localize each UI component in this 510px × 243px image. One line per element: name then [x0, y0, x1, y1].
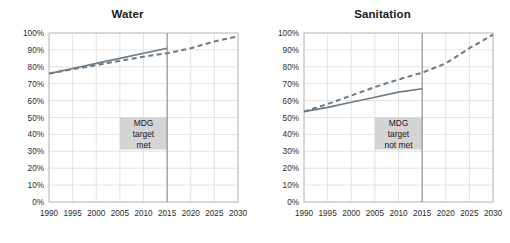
y-axis-tick-label: 90% [28, 46, 44, 55]
y-axis-tick-label: 0% [287, 198, 299, 207]
mdg-status-line: MDG [134, 118, 154, 128]
mdg-status-line: target [133, 129, 155, 139]
x-axis-tick-label: 2000 [342, 209, 361, 218]
y-axis-tick-label: 50% [283, 114, 299, 123]
y-axis-tick-label: 100% [278, 29, 299, 38]
y-axis-tick-label: 50% [28, 114, 44, 123]
x-axis-tick-label: 2025 [460, 209, 479, 218]
x-axis-tick-label: 2025 [205, 209, 224, 218]
mdg-status-line: met [137, 140, 152, 150]
x-axis-tick-label: 2020 [182, 209, 201, 218]
x-axis-tick-label: 2000 [87, 209, 106, 218]
x-axis-tick-label: 2030 [229, 209, 248, 218]
plot-area-water: MDGtargetmet0%10%20%30%40%50%60%70%80%90… [0, 0, 255, 243]
mdg-status-line: target [388, 129, 410, 139]
y-axis-tick-label: 40% [283, 130, 299, 139]
y-axis-tick-label: 20% [28, 164, 44, 173]
y-axis-tick-label: 0% [32, 198, 44, 207]
y-axis-tick-label: 10% [28, 181, 44, 190]
y-axis-tick-label: 30% [28, 147, 44, 156]
chart-panel-water: Water MDGtargetmet0%10%20%30%40%50%60%70… [0, 0, 255, 243]
y-axis-tick-label: 60% [283, 97, 299, 106]
x-axis-tick-label: 1995 [64, 209, 83, 218]
chart-panel-sanitation: Sanitation MDGtargetnot met0%10%20%30%40… [255, 0, 510, 243]
x-axis-tick-label: 1990 [295, 209, 314, 218]
y-axis-tick-label: 70% [28, 80, 44, 89]
y-axis-tick-label: 10% [283, 181, 299, 190]
y-axis-tick-label: 30% [283, 147, 299, 156]
y-axis-tick-label: 70% [283, 80, 299, 89]
y-axis-tick-label: 80% [28, 63, 44, 72]
x-axis-tick-label: 2020 [437, 209, 456, 218]
y-axis-tick-label: 100% [23, 29, 44, 38]
x-axis-tick-label: 1990 [40, 209, 59, 218]
y-axis-tick-label: 20% [283, 164, 299, 173]
mdg-status-line: not met [385, 140, 414, 150]
chart-figure: Water MDGtargetmet0%10%20%30%40%50%60%70… [0, 0, 510, 243]
x-axis-tick-label: 2015 [413, 209, 432, 218]
x-axis-tick-label: 2005 [111, 209, 130, 218]
x-axis-tick-label: 2030 [484, 209, 503, 218]
y-axis-tick-label: 60% [28, 97, 44, 106]
y-axis-tick-label: 40% [28, 130, 44, 139]
x-axis-tick-label: 1995 [319, 209, 338, 218]
x-axis-tick-label: 2005 [366, 209, 385, 218]
x-axis-tick-label: 2010 [134, 209, 153, 218]
mdg-status-line: MDG [389, 118, 409, 128]
y-axis-tick-label: 90% [283, 46, 299, 55]
y-axis-tick-label: 80% [283, 63, 299, 72]
x-axis-tick-label: 2010 [389, 209, 408, 218]
x-axis-tick-label: 2015 [158, 209, 177, 218]
plot-area-sanitation: MDGtargetnot met0%10%20%30%40%50%60%70%8… [255, 0, 510, 243]
